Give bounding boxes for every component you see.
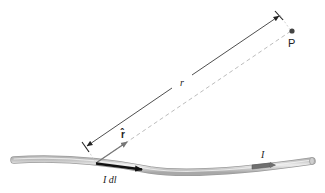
unit-vector-label: r̂	[120, 128, 125, 140]
dimension-tick-end	[275, 11, 283, 20]
biot-savart-diagram: P r r̂ I dl⃗ I	[0, 0, 325, 193]
point-label: P	[288, 37, 295, 49]
dimension-tick-start	[82, 142, 89, 152]
current-element-label: I dl⃗	[102, 174, 124, 185]
distance-label: r	[180, 77, 184, 88]
dimension-extension-end	[280, 15, 291, 31]
field-point	[289, 28, 294, 33]
current-label: I	[260, 149, 265, 160]
